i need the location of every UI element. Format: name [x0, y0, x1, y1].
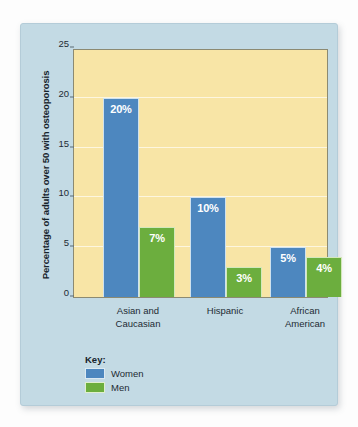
chart-card: Percentage of adults over 50 with osteop… — [20, 23, 338, 406]
y-tick-mark — [70, 146, 74, 147]
y-tick-label: 25 — [58, 38, 69, 49]
y-tick-mark — [70, 296, 74, 297]
x-category-label: AfricanAmerican — [260, 305, 350, 330]
bar-value-label: 4% — [307, 262, 341, 274]
y-tick-mark — [70, 47, 74, 48]
bar-men-0: 7% — [139, 227, 175, 297]
y-axis-title: Percentage of adults over 50 with osteop… — [39, 50, 53, 300]
bar-value-label: 10% — [191, 202, 225, 214]
bar-value-label: 7% — [140, 232, 174, 244]
legend-swatch-women-icon — [85, 368, 105, 379]
y-tick-label: 0 — [64, 287, 69, 298]
y-tick-mark — [70, 246, 74, 247]
y-tick-label: 10 — [58, 187, 69, 198]
legend-title: Key: — [85, 354, 144, 365]
legend-label-men: Men — [111, 382, 129, 393]
y-tick-mark — [70, 196, 74, 197]
legend-label-women: Women — [111, 368, 144, 379]
bar-men-1: 3% — [226, 267, 262, 297]
x-category-label: Asian andCaucasian — [93, 305, 183, 330]
bar-value-label: 5% — [271, 252, 305, 264]
bar-value-label: 3% — [227, 272, 261, 284]
y-tick-mark — [70, 96, 74, 97]
x-category-label: Hispanic — [180, 305, 270, 318]
y-tick-label: 20 — [58, 87, 69, 98]
bar-women-2: 5% — [270, 247, 306, 297]
legend-item-women: Women — [85, 368, 144, 379]
bar-value-label: 20% — [104, 103, 138, 115]
legend-swatch-men-icon — [85, 382, 105, 393]
y-tick-label: 15 — [58, 137, 69, 148]
y-tick-label: 5 — [64, 237, 69, 248]
bar-men-2: 4% — [306, 257, 342, 297]
bar-women-1: 10% — [190, 197, 226, 297]
bar-women-0: 20% — [103, 98, 139, 297]
legend-item-men: Men — [85, 382, 144, 393]
chart-legend: Key: Women Men — [85, 354, 144, 396]
plot-area: 051015202520%7%10%3%5%4% — [73, 49, 328, 298]
